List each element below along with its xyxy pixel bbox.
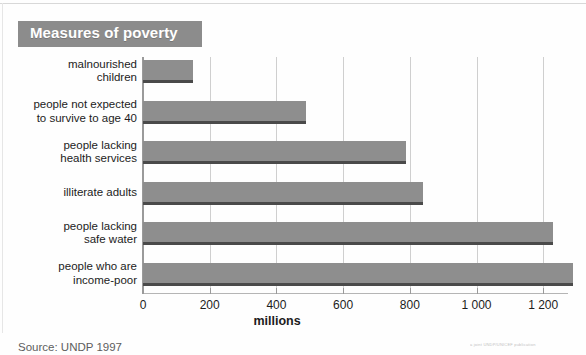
category-label-line: safe water (84, 233, 137, 245)
bar-shadow (143, 242, 553, 245)
category-label-line: people lacking (63, 220, 137, 232)
bar-shadow (143, 202, 423, 205)
bar-shadow (143, 161, 406, 164)
x-axis-tick-label: 1 000 (461, 298, 491, 312)
category-label-line: to survive to age 40 (37, 112, 137, 124)
y-axis-line (142, 57, 144, 294)
credit-note: a joint UNDP/UNICEF publication (470, 342, 578, 347)
category-label: malnourishedchildren (5, 58, 137, 85)
category-label-line: children (97, 71, 137, 83)
bar-shadow (143, 283, 573, 286)
category-label: illiterate adults (5, 186, 137, 200)
category-label-line: illiterate adults (63, 186, 137, 198)
category-label: people who areincome-poor (5, 260, 137, 287)
category-label: people not expectedto survive to age 40 (5, 98, 137, 125)
bar[interactable] (143, 101, 306, 121)
x-axis-tick (276, 288, 277, 294)
gridline (477, 57, 478, 293)
x-axis-tick-label: 400 (266, 298, 286, 312)
category-label: people lackingsafe water (5, 220, 137, 247)
gridline (276, 57, 277, 293)
bar-row[interactable] (143, 182, 423, 206)
bar-row[interactable] (143, 101, 306, 125)
bar[interactable] (143, 182, 423, 202)
bar-row[interactable] (143, 222, 553, 246)
x-axis-tick (143, 288, 144, 294)
gridline (210, 57, 211, 293)
x-axis-tick-label: 200 (200, 298, 220, 312)
x-axis-title: millions (253, 314, 300, 328)
gridline (343, 57, 344, 293)
x-axis-tick (343, 288, 344, 294)
category-label: people lackinghealth services (5, 139, 137, 166)
source-note: Source: UNDP 1997 (18, 341, 122, 353)
chart-figure: Measures of poverty 02004006008001 0001 … (0, 0, 586, 355)
x-axis-tick-label: 800 (400, 298, 420, 312)
x-axis-tick (410, 288, 411, 294)
x-axis-line (143, 293, 568, 294)
x-axis-tick-label: 0 (140, 298, 147, 312)
bar-shadow (143, 80, 193, 83)
x-axis-tick-label: 600 (333, 298, 353, 312)
category-label-line: people who are (58, 260, 137, 272)
category-label-line: income-poor (73, 274, 137, 286)
bar[interactable] (143, 222, 553, 242)
x-axis-tick (477, 288, 478, 294)
bar-row[interactable] (143, 60, 193, 84)
bar-row[interactable] (143, 263, 573, 287)
category-label-line: malnourished (68, 58, 137, 70)
gridline (543, 57, 544, 293)
bar[interactable] (143, 60, 193, 80)
x-axis-tick (210, 288, 211, 294)
x-axis-tick (543, 288, 544, 294)
category-label-line: people not expected (33, 98, 137, 110)
category-label-line: people lacking (63, 139, 137, 151)
x-axis-tick-label: 1 200 (528, 298, 558, 312)
bar[interactable] (143, 263, 573, 283)
bar[interactable] (143, 141, 406, 161)
gridline (410, 57, 411, 293)
bar-row[interactable] (143, 141, 406, 165)
category-label-line: health services (60, 152, 137, 164)
bar-shadow (143, 121, 306, 124)
plot-area: 02004006008001 0001 200malnourishedchild… (0, 0, 586, 355)
